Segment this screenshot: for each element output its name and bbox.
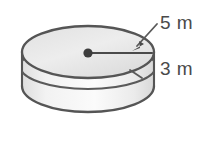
height-label: 3 m: [160, 59, 193, 78]
center-point-dot: [83, 48, 92, 57]
radius-label: 5 m: [160, 13, 193, 32]
cylinder-figure: 5 m 3 m: [0, 0, 214, 142]
